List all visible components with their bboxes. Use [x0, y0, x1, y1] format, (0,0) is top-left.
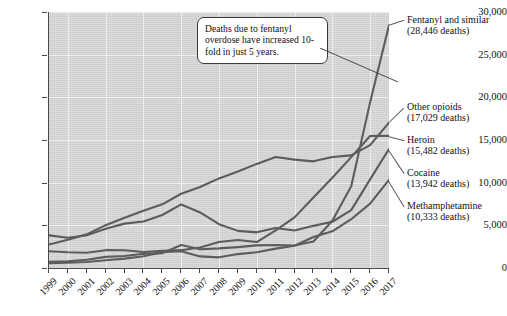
x-tick-mark	[388, 268, 389, 273]
x-tick-mark	[48, 268, 49, 273]
x-tick-mark	[369, 268, 370, 273]
y-tick-mark	[42, 225, 47, 226]
series-leader-line	[388, 20, 404, 26]
x-tick-mark	[124, 268, 125, 273]
x-tick-mark	[142, 268, 143, 273]
y-tick-label: 20,000	[463, 92, 507, 103]
x-tick-mark	[218, 268, 219, 273]
y-tick-label: 0	[463, 263, 507, 274]
y-tick-mark	[42, 12, 47, 13]
x-tick-mark	[237, 268, 238, 273]
series-label-title: Methamphetamine	[407, 200, 507, 211]
x-tick-mark	[86, 268, 87, 273]
series-line	[49, 136, 389, 253]
y-tick-label: 5,000	[463, 220, 507, 231]
y-tick-label: 25,000	[463, 50, 507, 61]
y-tick-mark	[42, 97, 47, 98]
y-tick-label: 30,000	[463, 7, 507, 18]
series-leader-line	[388, 149, 405, 174]
x-tick-mark	[294, 268, 295, 273]
series-leader-line	[388, 136, 404, 141]
x-tick-mark	[312, 268, 313, 273]
x-tick-mark	[350, 268, 351, 273]
series-label-count: (17,029 deaths)	[407, 112, 507, 123]
y-tick-mark	[42, 140, 47, 141]
series-line	[49, 149, 389, 238]
x-tick-mark	[199, 268, 200, 273]
annotation-text: Deaths due to fentanyl overdose have inc…	[205, 23, 314, 57]
x-tick-mark	[180, 268, 181, 273]
series-line	[49, 123, 389, 245]
chart-root: Deaths due to fentanyl overdose have inc…	[0, 0, 507, 316]
y-tick-mark	[42, 55, 47, 56]
series-label-count: (28,446 deaths)	[407, 25, 507, 36]
x-tick-mark	[275, 268, 276, 273]
y-tick-label: 10,000	[463, 178, 507, 189]
series-label: Other opioids(17,029 deaths)	[407, 101, 507, 124]
x-tick-mark	[161, 268, 162, 273]
x-tick-mark	[67, 268, 68, 273]
x-tick-mark	[331, 268, 332, 273]
annotation-callout: Deaths due to fentanyl overdose have inc…	[197, 17, 328, 64]
series-leader-line	[388, 180, 405, 207]
y-tick-label: 15,000	[463, 135, 507, 146]
series-label-count: (15,482 deaths)	[407, 145, 507, 156]
x-tick-mark	[256, 268, 257, 273]
annotation-leader-line	[320, 48, 400, 84]
x-tick-mark	[105, 268, 106, 273]
y-tick-mark	[42, 183, 47, 184]
series-leader-line	[388, 107, 405, 123]
y-tick-mark	[42, 268, 47, 269]
